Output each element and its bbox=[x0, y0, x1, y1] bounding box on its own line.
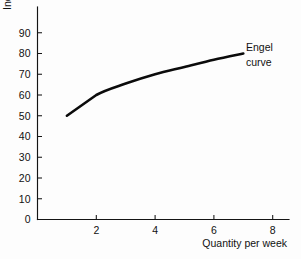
y-axis-ticks: 0102030405060708090 bbox=[19, 27, 42, 226]
data-series-group bbox=[67, 54, 243, 116]
engel-curve-label-line-1: Engel bbox=[246, 41, 273, 53]
x-tick-label: 2 bbox=[93, 224, 99, 236]
y-tick-label: 40 bbox=[19, 130, 31, 142]
x-tick-label: 8 bbox=[270, 224, 276, 236]
y-tick-label: 20 bbox=[19, 172, 31, 184]
y-tick-label: 60 bbox=[19, 89, 31, 101]
y-tick-label: 10 bbox=[19, 193, 31, 205]
x-tick-label: 6 bbox=[211, 224, 217, 236]
x-axis-ticks: 2468 bbox=[93, 215, 275, 236]
y-tick-label: 0 bbox=[25, 213, 31, 225]
chart-canvas: 0102030405060708090 2468 Quantity per we… bbox=[0, 0, 301, 259]
y-axis-title: Income (£) bbox=[1, 0, 13, 10]
y-tick-label: 70 bbox=[19, 68, 31, 80]
y-tick-label: 50 bbox=[19, 110, 31, 122]
engel-curve-label-line-2: curve bbox=[246, 56, 272, 68]
y-tick-label: 80 bbox=[19, 47, 31, 59]
axes-group bbox=[38, 7, 290, 220]
engel-curve-annotation: Engel curve bbox=[246, 41, 273, 68]
engel-curve-line bbox=[67, 54, 243, 116]
engel-curve-figure: 0102030405060708090 2468 Quantity per we… bbox=[0, 0, 301, 259]
y-tick-label: 90 bbox=[19, 27, 31, 39]
x-axis-title: Quantity per week bbox=[202, 237, 287, 249]
y-tick-label: 30 bbox=[19, 151, 31, 163]
x-tick-label: 4 bbox=[152, 224, 158, 236]
